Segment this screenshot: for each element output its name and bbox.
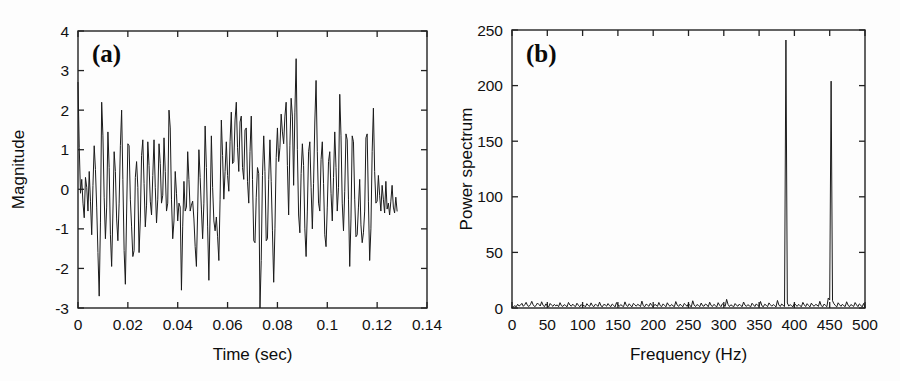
figure-container: 00.020.040.060.080.10.120.14-3-2-101234T… bbox=[0, 0, 900, 381]
x-tick-label: 0.02 bbox=[113, 316, 143, 333]
y-tick-label: 50 bbox=[486, 244, 504, 261]
x-tick-label: 0.12 bbox=[362, 316, 392, 333]
x-tick-label: 350 bbox=[746, 316, 772, 333]
x-tick-label: 0 bbox=[508, 316, 517, 333]
x-tick-label: 500 bbox=[852, 316, 878, 333]
x-tick-label: 0.08 bbox=[262, 316, 292, 333]
y-tick-label: 0 bbox=[60, 181, 69, 198]
panel-b-power-spectrum: 0501001502002503003504004505000501001502… bbox=[450, 0, 900, 381]
data-series-line bbox=[512, 40, 865, 308]
chart-a-root: 00.020.040.060.080.10.120.14-3-2-101234T… bbox=[9, 23, 442, 365]
x-tick-label: 0.14 bbox=[412, 316, 443, 333]
y-tick-label: 0 bbox=[494, 300, 503, 317]
y-tick-label: 1 bbox=[60, 141, 69, 158]
y-axis-title: Power spectrum bbox=[457, 108, 476, 231]
x-tick-label: 450 bbox=[817, 316, 843, 333]
x-tick-label: 400 bbox=[781, 316, 807, 333]
plot-frame bbox=[512, 30, 865, 308]
y-tick-label: 3 bbox=[60, 62, 69, 79]
y-tick-label: -3 bbox=[55, 300, 69, 317]
y-tick-label: 150 bbox=[477, 133, 503, 150]
chart-b-svg: 0501001502002503003504004505000501001502… bbox=[450, 0, 900, 381]
x-axis-title: Frequency (Hz) bbox=[630, 345, 747, 364]
x-tick-label: 100 bbox=[570, 316, 596, 333]
y-tick-label: 2 bbox=[60, 102, 69, 119]
y-tick-label: 100 bbox=[477, 188, 503, 205]
y-tick-label: 4 bbox=[60, 23, 69, 40]
chart-b-root: 0501001502002503003504004505000501001502… bbox=[457, 22, 878, 365]
y-tick-label: -1 bbox=[55, 220, 69, 237]
x-tick-label: 0.04 bbox=[163, 316, 194, 333]
x-tick-label: 200 bbox=[640, 316, 666, 333]
y-tick-label: -2 bbox=[55, 260, 69, 277]
x-tick-label: 250 bbox=[676, 316, 702, 333]
x-tick-label: 0 bbox=[74, 316, 83, 333]
x-tick-label: 0.1 bbox=[317, 316, 339, 333]
y-tick-label: 250 bbox=[477, 22, 503, 39]
x-tick-label: 0.06 bbox=[212, 316, 242, 333]
panel-label: (a) bbox=[92, 40, 121, 68]
x-tick-label: 150 bbox=[605, 316, 631, 333]
y-axis-title: Magnitude bbox=[9, 130, 28, 209]
data-series-line bbox=[78, 59, 397, 308]
chart-a-svg: 00.020.040.060.080.10.120.14-3-2-101234T… bbox=[0, 0, 450, 381]
x-tick-label: 50 bbox=[539, 316, 557, 333]
y-tick-label: 200 bbox=[477, 77, 503, 94]
panel-label: (b) bbox=[526, 40, 557, 68]
panel-a-time-domain: 00.020.040.060.080.10.120.14-3-2-101234T… bbox=[0, 0, 450, 381]
x-tick-label: 300 bbox=[711, 316, 737, 333]
x-axis-title: Time (sec) bbox=[213, 345, 293, 364]
